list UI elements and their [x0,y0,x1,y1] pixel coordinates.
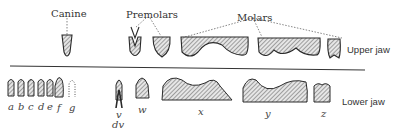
upper-premolar-1 [129,37,141,56]
letter-y: y [265,108,271,119]
lower-jaw-teeth [8,78,330,102]
label-upper-jaw: Upper jaw [347,44,390,55]
label-molars: Molars [237,12,272,23]
lower-tooth-x [162,78,232,100]
leader-lines [67,18,342,38]
lower-tooth-g-dotted [69,81,75,98]
letter-c: c [28,101,34,112]
lower-incisor-b [18,80,24,97]
upper-molar-2 [258,38,320,56]
lower-tooth-z [314,84,330,102]
label-canine: Canine [51,8,87,19]
letter-x: x [198,106,204,117]
letter-b: b [18,101,24,112]
letter-dv: dv [112,119,124,130]
lower-tooth-y [243,79,307,102]
letter-g: g [69,102,75,113]
label-lower-jaw: Lower jaw [342,96,385,107]
upper-molar-1 [181,37,248,56]
letter-d: d [38,101,44,112]
upper-jaw-teeth [62,27,340,58]
lower-incisor-d [38,80,44,97]
letter-z: z [321,108,326,119]
lower-tooth-w [136,78,149,98]
upper-canine [62,35,72,56]
lower-incisor-a [8,80,14,97]
jaw-divider [10,66,365,70]
letter-w: w [138,104,147,115]
label-premolars: Premolars [126,9,178,20]
upper-premolar-2 [153,37,170,57]
letter-f: f [57,102,61,113]
lower-tooth-f [55,78,63,97]
lower-incisor-c [28,80,34,97]
letter-e: e [47,101,53,112]
upper-molar-3 [328,39,341,58]
letter-a: a [8,101,14,112]
lower-incisor-e [47,80,53,97]
